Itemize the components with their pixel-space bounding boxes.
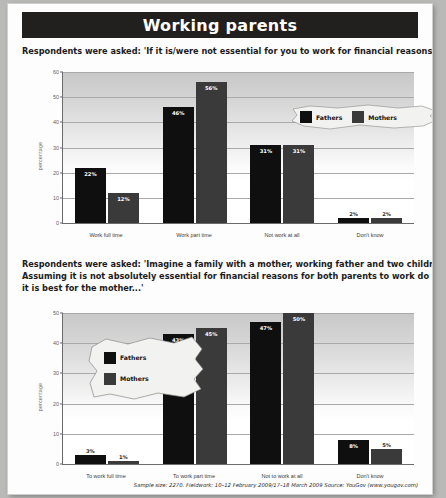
- source-footnote: Sample size: 2270. Fieldwork: 10–12 Febr…: [134, 482, 418, 488]
- y-axis-tick-label: 10: [53, 195, 59, 201]
- y-axis-tick-label: 30: [53, 370, 59, 376]
- chart-1-legend: Fathers Mothers: [290, 104, 432, 130]
- question-line: Respondents were asked: 'If it is/were n…: [22, 46, 422, 58]
- bar-fathers-0: 22%: [75, 168, 106, 223]
- legend-item-mothers: Mothers: [104, 373, 149, 385]
- legend-swatch-fathers-icon: [300, 111, 312, 123]
- chart-2-category-labels: To work full timeTo work part timeNot to…: [62, 473, 414, 479]
- category-label: To work part time: [150, 473, 238, 479]
- bar-value-label: 46%: [163, 110, 194, 116]
- chart-2-legend: Fathers Mothers: [88, 335, 206, 401]
- question-line: it is best for the mother...': [22, 283, 422, 295]
- bar-value-label: 31%: [250, 148, 281, 154]
- legend-label-fathers: Fathers: [316, 114, 342, 121]
- bar-mothers-2: 31%: [283, 145, 314, 223]
- chart-1-category-labels: Work full timeWork part timeNot work at …: [62, 232, 414, 238]
- y-axis-tick-label: 10: [53, 431, 59, 437]
- legend-swatch-mothers-icon: [352, 111, 364, 123]
- legend-label-mothers: Mothers: [120, 375, 149, 382]
- bar-value-label: 3%: [75, 448, 106, 454]
- y-axis-tick-label: 0: [56, 220, 59, 226]
- y-axis-tick-label: 40: [53, 119, 59, 125]
- category-label: Not work at all: [238, 232, 326, 238]
- chart-1-plot-area: 010203040506022%12%46%56%31%31%2%2%: [62, 72, 414, 224]
- bar-fathers-2: 47%: [250, 322, 281, 464]
- bar-fathers-3: 8%: [338, 440, 369, 464]
- category-label: Work part time: [150, 232, 238, 238]
- bar-value-label: 1%: [108, 454, 139, 460]
- category-label: Work full time: [62, 232, 150, 238]
- bar-fathers-2: 31%: [250, 145, 281, 223]
- y-axis-tick-label: 20: [53, 170, 59, 176]
- y-axis-tick-label: 30: [53, 145, 59, 151]
- legend-label-mothers: Mothers: [368, 114, 397, 121]
- chart-2: percentage 010203040503%1%43%45%47%50%8%…: [22, 307, 422, 487]
- chart-1: percentage 010203040506022%12%46%56%31%3…: [22, 66, 422, 246]
- bar-mothers-3: 2%: [371, 218, 402, 223]
- bar-groups: 22%12%46%56%31%31%2%2%: [63, 72, 414, 223]
- bar-value-label: 50%: [283, 316, 314, 322]
- bar-mothers-1: 56%: [196, 82, 227, 223]
- question-text-1: Respondents were asked: 'If it is/were n…: [22, 46, 422, 58]
- bar-mothers-2: 50%: [283, 313, 314, 464]
- category-label: Not to work at all: [238, 473, 326, 479]
- question-line: Assuming it is not absolutely essential …: [22, 271, 422, 283]
- bar-value-label: 8%: [338, 443, 369, 449]
- bar-mothers-0: 12%: [108, 193, 139, 223]
- bar-value-label: 5%: [371, 442, 402, 448]
- legend-swatch-fathers-icon: [104, 352, 116, 364]
- y-axis-tick-label: 50: [53, 310, 59, 316]
- y-axis-tick-label: 0: [56, 461, 59, 467]
- bar-fathers-3: 2%: [338, 218, 369, 223]
- category-label: Don't know: [326, 232, 414, 238]
- page-title: Working parents: [143, 16, 298, 35]
- bar-group: 2%2%: [326, 72, 414, 223]
- question-line: Respondents were asked: 'Imagine a famil…: [22, 259, 422, 271]
- bar-group: 8%5%: [326, 313, 414, 464]
- bar-value-label: 47%: [250, 325, 281, 331]
- bar-value-label: 56%: [196, 85, 227, 91]
- y-axis-tick-label: 40: [53, 340, 59, 346]
- chart-1-y-axis-label: percentage: [37, 142, 43, 171]
- y-axis-tick-label: 20: [53, 401, 59, 407]
- y-axis-tick-label: 50: [53, 94, 59, 100]
- torn-paper-shape-icon: [88, 335, 206, 401]
- bar-group: 31%31%: [239, 72, 327, 223]
- bar-mothers-0: 1%: [108, 461, 139, 464]
- bar-mothers-3: 5%: [371, 449, 402, 464]
- category-label: Don't know: [326, 473, 414, 479]
- bar-fathers-1: 46%: [163, 107, 194, 223]
- legend-item-mothers: Mothers: [352, 111, 397, 123]
- bar-group: 46%56%: [151, 72, 239, 223]
- question-text-2: Respondents were asked: 'Imagine a famil…: [22, 259, 422, 295]
- chart-2-y-axis-label: percentage: [37, 383, 43, 412]
- infographic-page: Working parents Respondents were asked: …: [8, 4, 432, 494]
- legend-item-fathers: Fathers: [300, 111, 342, 123]
- legend-swatch-mothers-icon: [104, 373, 116, 385]
- bar-value-label: 12%: [108, 196, 139, 202]
- y-axis-tick-label: 60: [53, 69, 59, 75]
- bar-fathers-0: 3%: [75, 455, 106, 464]
- legend-label-fathers: Fathers: [120, 354, 146, 361]
- bar-value-label: 2%: [371, 211, 402, 217]
- bar-value-label: 31%: [283, 148, 314, 154]
- page-title-bar: Working parents: [22, 12, 418, 38]
- bar-group: 22%12%: [63, 72, 151, 223]
- bar-value-label: 22%: [75, 171, 106, 177]
- bar-group: 47%50%: [239, 313, 327, 464]
- bar-value-label: 2%: [338, 211, 369, 217]
- legend-item-fathers: Fathers: [104, 352, 146, 364]
- category-label: To work full time: [62, 473, 150, 479]
